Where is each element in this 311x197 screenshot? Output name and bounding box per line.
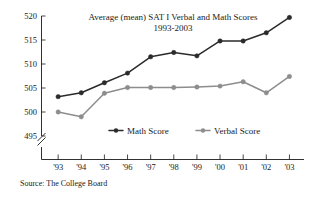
y-axis-tick-label: 500 [24, 107, 37, 117]
legend-swatch-marker [201, 128, 205, 132]
x-axis-tick-label: '00 [215, 162, 225, 172]
x-axis-tick-label: '96 [123, 162, 133, 172]
data-point [79, 91, 83, 95]
x-axis-tick-label: '03 [284, 162, 294, 172]
data-point [287, 15, 291, 19]
data-point [102, 91, 106, 95]
x-axis-tick-label: '95 [99, 162, 109, 172]
data-point [287, 74, 291, 78]
data-point [56, 94, 60, 98]
y-axis-tick-label: 495 [24, 131, 37, 141]
chart-container: 495500505510515520 '93'94'95'96'97'98'99… [0, 0, 311, 197]
y-axis-tick-label: 505 [24, 83, 37, 93]
x-axis-tick-label: '99 [192, 162, 202, 172]
data-point [195, 54, 199, 58]
data-point [218, 39, 222, 43]
data-point [172, 85, 176, 89]
data-point [56, 110, 60, 114]
data-point [148, 55, 152, 59]
data-point [172, 50, 176, 54]
data-point [79, 115, 83, 119]
x-axis-tick-label: '94 [76, 162, 87, 172]
data-point [264, 91, 268, 95]
data-point [102, 81, 106, 85]
x-axis-tick-label: '02 [261, 162, 271, 172]
x-axis-tick-label: '93 [53, 162, 63, 172]
data-point [241, 39, 245, 43]
y-axis-tick-label: 510 [24, 59, 37, 69]
x-axis-tick-label: '97 [146, 162, 156, 172]
source-note: Source: The College Board [20, 179, 107, 188]
data-point [125, 71, 129, 75]
sat-scores-line-chart: 495500505510515520 '93'94'95'96'97'98'99… [0, 0, 311, 197]
data-point [264, 31, 268, 35]
data-point [125, 85, 129, 89]
x-axis-tick-label: '98 [169, 162, 179, 172]
legend-label: Math Score [127, 126, 169, 136]
legend-swatch-marker [114, 128, 118, 132]
legend-label: Verbal Score [214, 126, 260, 136]
data-point [148, 85, 152, 89]
data-point [241, 80, 245, 84]
chart-title: Average (mean) SAT I Verbal and Math Sco… [88, 12, 258, 22]
chart-subtitle: 1993-2003 [154, 23, 193, 33]
y-axis-tick-label: 515 [24, 35, 37, 45]
x-axis-tick-label: '01 [238, 162, 248, 172]
data-point [195, 85, 199, 89]
y-axis-tick-label: 520 [24, 11, 37, 21]
data-point [218, 84, 222, 88]
